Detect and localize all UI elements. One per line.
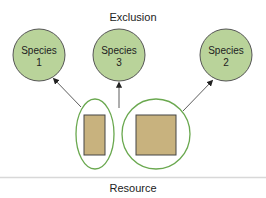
resource-label: Resource [109,182,156,194]
species-1-node: Species 1 [13,29,65,81]
arrow-to-species-1 [54,79,81,107]
resource-block-small [84,115,105,155]
species-3-label: Species [101,45,137,56]
species-2-number: 2 [223,57,229,68]
species-3-number: 3 [116,57,122,68]
species-2-node: Species 2 [200,29,252,81]
species-1-number: 1 [36,57,42,68]
arrow-to-species-2 [183,81,212,111]
resource-block-large [136,115,176,155]
exclusion-diagram: Exclusion Species 1 Species 3 Species 2 … [0,0,266,198]
species-3-node: Species 3 [93,29,145,81]
species-1-label: Species [21,45,57,56]
species-2-label: Species [208,45,244,56]
diagram-title: Exclusion [109,11,156,23]
